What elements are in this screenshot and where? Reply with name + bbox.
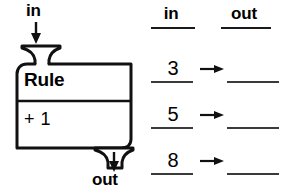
out-answer-blank[interactable] <box>227 81 279 83</box>
in-out-table: in out 3 5 8 <box>145 0 285 196</box>
table-row: 5 <box>153 103 193 125</box>
in-value-line <box>151 173 193 175</box>
table-header-in-underline <box>151 27 195 29</box>
arrow-right-icon <box>199 62 225 76</box>
table-header-in: in <box>149 4 193 23</box>
in-value-line <box>151 81 193 83</box>
worksheet-canvas: in Rule + 1 out in out 3 5 8 <box>0 0 285 196</box>
rule-title: Rule <box>24 69 64 91</box>
in-value-line <box>151 127 193 129</box>
machine-output-label: out <box>92 171 118 189</box>
rule-machine-shape <box>0 0 150 196</box>
table-header-out-underline <box>221 27 271 29</box>
table-header-out: out <box>219 4 269 23</box>
arrow-right-icon <box>199 108 225 122</box>
table-row: 8 <box>153 149 193 171</box>
table-row: 3 <box>153 57 193 79</box>
rule-machine-diagram: in Rule + 1 out <box>0 0 150 196</box>
arrow-right-icon <box>199 154 225 168</box>
out-answer-blank[interactable] <box>227 173 279 175</box>
machine-input-label: in <box>26 2 41 20</box>
rule-operation: + 1 <box>24 109 51 129</box>
input-arrow-icon <box>31 22 41 44</box>
out-answer-blank[interactable] <box>227 127 279 129</box>
